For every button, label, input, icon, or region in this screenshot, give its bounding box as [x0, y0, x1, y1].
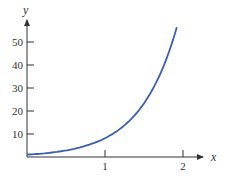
y-tick-label: 50 — [12, 36, 24, 48]
axes — [27, 20, 203, 157]
y-tick-label: 30 — [12, 82, 24, 94]
x-tick-label: 1 — [102, 160, 108, 172]
y-tick-label: 40 — [12, 59, 24, 71]
y-tick-label: 10 — [12, 128, 24, 140]
exponential-chart: 12 1020304050 x y — [0, 0, 226, 181]
y-tick-label: 20 — [12, 105, 24, 117]
x-ticks: 12 — [102, 150, 186, 172]
y-axis-label: y — [22, 3, 29, 17]
x-tick-label: 2 — [180, 160, 186, 172]
x-axis-label: x — [210, 150, 217, 164]
y-ticks: 1020304050 — [12, 36, 34, 140]
curve-line — [27, 27, 177, 154]
